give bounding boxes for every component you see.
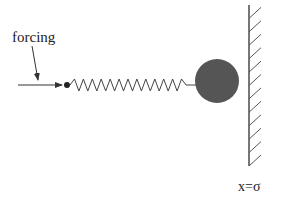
hatch-line [249,48,261,59]
hatch-line [249,21,261,32]
mass-ball [195,59,239,103]
mass-spring-diagram: forcing x=σ [0,0,285,202]
hatch-line [249,128,261,139]
label-pointer-arrow [32,46,38,80]
hatch-line [249,34,261,45]
spring [70,79,186,91]
hatch-line [249,7,261,18]
hatch-line [249,155,261,166]
hatch-line [249,88,261,99]
hatch-line [249,115,261,126]
driver-point [64,82,70,88]
hatch-line [249,101,261,112]
hatch-line [249,61,261,72]
hatch-line [249,142,261,153]
wall-hatching [249,7,261,166]
forcing-label: forcing [12,29,56,45]
hatch-line [249,75,261,86]
wall-position-label: x=σ [238,179,261,194]
